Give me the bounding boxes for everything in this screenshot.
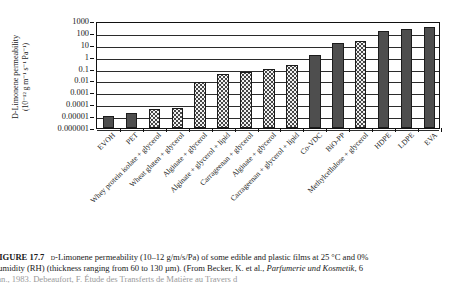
figure-number: FIGURE 17.7 [0, 252, 44, 262]
y-tick-label: 0.001 [70, 89, 89, 97]
caption-line-3: Jan., 1983. Debeaufort, F. Étude des Tra… [0, 274, 457, 285]
y-tick-label: 1 [85, 53, 89, 61]
y-tick-mark [90, 81, 94, 82]
x-axis-category-labels: EVOHPETWhey protein isolate + glycerolWh… [96, 130, 440, 235]
x-category-label: HDPE [373, 131, 393, 151]
caption-line-2: humidity (RH) (thickness ranging from 60… [0, 263, 457, 274]
figure-17-7: D-Limonene permeability (10⁻¹² g m⁻¹ s⁻¹… [0, 0, 457, 287]
bar-1 [103, 116, 114, 128]
y-tick-mark [90, 117, 94, 118]
y-tick-label: 0.1 [79, 65, 89, 73]
y-tick-label: 0.00001 [62, 113, 89, 121]
x-category-label: PET [125, 131, 140, 146]
y-tick-label: 0.01 [74, 77, 89, 85]
y-tick-mark [90, 46, 94, 47]
y-tick-mark [90, 58, 94, 59]
y-tick-label: 0.000001 [58, 125, 89, 133]
caption-line-1: d-Limonene permeability (10–12 g/m/s/Pa)… [51, 252, 369, 262]
x-category-label: EVA [422, 131, 438, 147]
y-tick-mark [90, 34, 94, 35]
x-category-label: LDPE [396, 131, 415, 150]
y-tick-label: 0.0001 [66, 101, 89, 109]
y-tick-label: 100 [76, 30, 89, 38]
y-tick-mark [90, 93, 94, 94]
y-tick-label: 1000 [72, 18, 89, 26]
bar-12 [355, 41, 366, 128]
bar-14 [401, 29, 412, 128]
y-tick-mark [90, 70, 94, 71]
y-tick-mark [90, 22, 94, 23]
y-tick-mark [90, 105, 94, 106]
figure-caption: FIGURE 17.7 d-Limonene permeability (10–… [0, 252, 457, 286]
y-axis-tick-labels: 10001001010.10.010.0010.00010.000010.000… [18, 22, 93, 129]
y-tick-label: 10 [81, 42, 89, 50]
y-tick-mark [90, 129, 94, 130]
bar-3 [149, 109, 160, 128]
x-category-label: EVOH [97, 131, 118, 152]
